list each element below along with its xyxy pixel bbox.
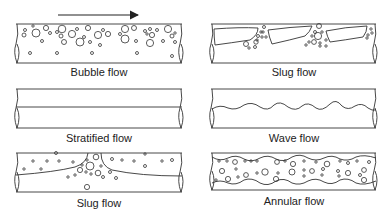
panel-label: Slug flow: [77, 197, 122, 209]
slug-flow-bottom-panel: Slug flow: [15, 152, 183, 210]
pipe-outline: [210, 24, 377, 63]
pipe-outline: [210, 153, 377, 190]
flow-regimes-diagram: Bubble flow Slug flow: [0, 0, 391, 220]
annular-flow-panel: Annular flow: [210, 153, 377, 207]
panel-label: Stratified flow: [66, 132, 132, 144]
wave-flow-panel: Wave flow: [210, 89, 377, 144]
stratified-flow-panel: Stratified flow: [15, 89, 183, 144]
panel-label: Bubble flow: [71, 66, 128, 78]
panel-label: Slug flow: [272, 66, 317, 78]
slug-flow-top-panel: Slug flow: [210, 24, 377, 79]
pipe-outline: [15, 89, 183, 128]
gas-slugs: [214, 26, 367, 45]
bubble-flow-panel: Bubble flow: [15, 24, 183, 78]
wavy-interface: [212, 101, 376, 110]
bubbles: [22, 25, 177, 58]
panel-label: Annular flow: [264, 195, 325, 207]
bubbles: [23, 152, 174, 190]
bubbles: [244, 24, 374, 50]
panel-label: Wave flow: [269, 132, 319, 144]
